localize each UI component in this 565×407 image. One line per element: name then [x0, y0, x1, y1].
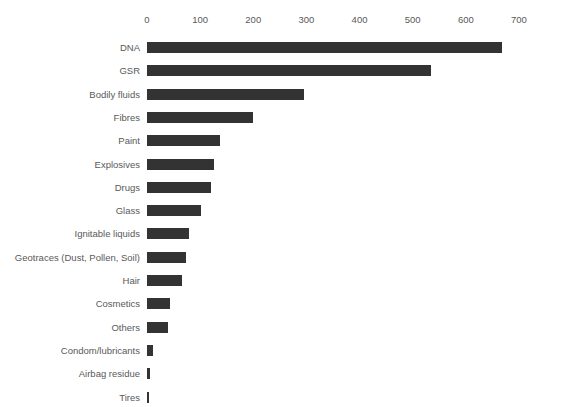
chart-row: Drugs [0, 176, 565, 199]
chart-row: Hair [0, 269, 565, 292]
category-label: Cosmetics [96, 292, 140, 315]
bar [147, 112, 253, 123]
chart-row: Ignitable liquids [0, 222, 565, 245]
chart-row: Geotraces (Dust, Pollen, Soil) [0, 246, 565, 269]
bar [147, 298, 170, 309]
category-label: Bodily fluids [89, 83, 140, 106]
chart-row: Fibres [0, 106, 565, 129]
chart-row: Tires [0, 386, 565, 407]
bar [147, 159, 214, 170]
category-label: Fibres [114, 106, 140, 129]
bar [147, 392, 149, 403]
category-label: Geotraces (Dust, Pollen, Soil) [15, 246, 140, 269]
bar [147, 345, 153, 356]
bar [147, 275, 182, 286]
chart-row: Explosives [0, 153, 565, 176]
chart-row: Cosmetics [0, 292, 565, 315]
bar [147, 182, 211, 193]
category-label: Airbag residue [79, 362, 140, 385]
category-label: Condom/lubricants [61, 339, 140, 362]
category-label: Glass [116, 199, 140, 222]
bar [147, 252, 186, 263]
chart-row: Condom/lubricants [0, 339, 565, 362]
chart-row: GSR [0, 59, 565, 82]
bar [147, 135, 220, 146]
category-label: GSR [119, 59, 140, 82]
category-label: Drugs [115, 176, 140, 199]
bar [147, 205, 201, 216]
bar [147, 322, 168, 333]
chart-row: Glass [0, 199, 565, 222]
bar [147, 368, 150, 379]
bar [147, 42, 502, 53]
category-label: Tires [119, 386, 140, 407]
chart-row: Airbag residue [0, 362, 565, 385]
chart-row: DNA [0, 36, 565, 59]
category-label: Others [111, 316, 140, 339]
chart-row: Others [0, 316, 565, 339]
category-label: Ignitable liquids [75, 222, 141, 245]
chart-row: Paint [0, 129, 565, 152]
category-label: DNA [120, 36, 140, 59]
chart-row: Bodily fluids [0, 83, 565, 106]
category-label: Hair [123, 269, 140, 292]
category-label: Explosives [95, 153, 140, 176]
bar [147, 65, 431, 76]
bar [147, 89, 304, 100]
category-label: Paint [118, 129, 140, 152]
bar [147, 228, 189, 239]
